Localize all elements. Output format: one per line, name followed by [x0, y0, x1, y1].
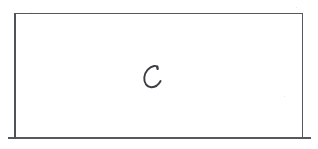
right-stroke-overshoot [302, 134, 304, 139]
handwritten-character-c [138, 60, 168, 94]
scan-speckle [296, 7, 297, 8]
left-stroke-overshoot [14, 134, 16, 139]
baseline-rule [8, 137, 311, 139]
handwritten-character-c-icon [138, 60, 168, 94]
scan-canvas: c [0, 0, 318, 149]
scan-speckle [284, 96, 285, 97]
scan-speckle [30, 12, 31, 13]
